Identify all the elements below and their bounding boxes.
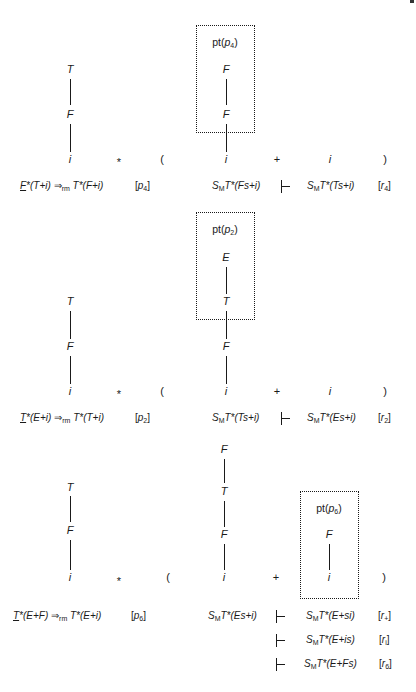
tree-node: F bbox=[326, 528, 333, 540]
tree-edge bbox=[70, 496, 71, 522]
tree-node: T bbox=[67, 63, 74, 75]
tree-node: F bbox=[223, 63, 230, 75]
page-corner-fragment bbox=[410, 0, 414, 3]
configuration-from: SMT*(Ts+i) bbox=[212, 412, 259, 424]
tree-node: i bbox=[223, 571, 225, 583]
plus-symbol: + bbox=[273, 571, 279, 583]
tree-edge bbox=[70, 79, 71, 105]
left-paren: ( bbox=[160, 385, 164, 397]
turnstile-icon bbox=[281, 180, 290, 193]
tree-node: E bbox=[222, 251, 229, 263]
reduction-formula: F*(T+i) ⇒rm T*(F+i) bbox=[20, 180, 103, 192]
tree-edge bbox=[70, 311, 71, 339]
turnstile-icon bbox=[276, 610, 285, 623]
box-label: pt(p4) bbox=[212, 36, 238, 49]
box-label: pt(p6) bbox=[316, 502, 342, 515]
left-paren: ( bbox=[166, 571, 170, 583]
left-paren: ( bbox=[160, 153, 164, 165]
tree-edge bbox=[226, 311, 227, 339]
tree-edge bbox=[224, 501, 225, 527]
tree-node: F bbox=[67, 524, 74, 536]
star-symbol: * bbox=[117, 156, 121, 168]
plus-symbol: + bbox=[274, 385, 280, 397]
tree-edge bbox=[226, 267, 227, 294]
tree-node: i bbox=[69, 385, 71, 397]
tree-node: F bbox=[67, 340, 74, 352]
tree-node: i bbox=[329, 385, 331, 397]
configuration-to: SMT*(E+si) bbox=[306, 610, 355, 622]
reduction-formula: T*(E+i) ⇒rm T*(T+i) bbox=[20, 412, 104, 424]
configuration-from: SMT*(Es+i) bbox=[208, 610, 257, 622]
production-tag: [p4] bbox=[135, 180, 150, 192]
right-paren: ) bbox=[383, 153, 387, 165]
tree-node: F bbox=[221, 443, 228, 455]
tree-node: i bbox=[69, 571, 71, 583]
turnstile-icon bbox=[281, 412, 290, 425]
configuration-from: SMT*(Fs+i) bbox=[212, 180, 260, 192]
configuration-to: SMT*(E+is) bbox=[306, 634, 355, 646]
rule-tag: [r4] bbox=[378, 180, 391, 192]
turnstile-icon bbox=[276, 634, 285, 647]
tree-node: T bbox=[221, 485, 228, 497]
tree-node: T bbox=[223, 295, 230, 307]
tree-edge bbox=[226, 124, 227, 152]
tree-edge bbox=[224, 544, 225, 570]
tree-node: F bbox=[67, 108, 74, 120]
star-symbol: * bbox=[117, 575, 121, 587]
tree-node: T bbox=[67, 295, 74, 307]
rule-tag: [r6] bbox=[379, 658, 392, 670]
tree-edge bbox=[70, 124, 71, 152]
tree-node: i bbox=[69, 153, 71, 165]
tree-node: i bbox=[225, 385, 227, 397]
right-paren: ) bbox=[382, 571, 386, 583]
box-label: pt(p2) bbox=[212, 223, 238, 236]
tree-edge bbox=[224, 459, 225, 483]
turnstile-icon bbox=[276, 658, 285, 671]
tree-node: i bbox=[329, 153, 331, 165]
tree-edge bbox=[226, 356, 227, 384]
configuration-to: SMT*(E+Fs) bbox=[304, 658, 357, 670]
reduction-formula: T*(E+F) ⇒rm T*(E+i) bbox=[13, 610, 101, 622]
tree-node: F bbox=[221, 528, 228, 540]
tree-edge bbox=[226, 79, 227, 105]
configuration-to: SMT*(Es+i) bbox=[307, 412, 356, 424]
tree-edge bbox=[329, 544, 330, 570]
rule-tag: [r+] bbox=[378, 610, 391, 622]
star-symbol: * bbox=[117, 388, 121, 400]
plus-symbol: + bbox=[274, 153, 280, 165]
tree-node: i bbox=[328, 571, 330, 583]
rule-tag: [ri] bbox=[379, 634, 389, 646]
tree-node: T bbox=[67, 481, 74, 493]
configuration-to: SMT*(Ts+i) bbox=[307, 180, 354, 192]
production-tag: [p2] bbox=[135, 412, 150, 424]
production-tag: [p6] bbox=[131, 610, 146, 622]
rule-tag: [r2] bbox=[378, 412, 391, 424]
tree-edge bbox=[70, 356, 71, 384]
tree-node: F bbox=[223, 340, 230, 352]
tree-edge bbox=[70, 540, 71, 570]
tree-node: i bbox=[225, 153, 227, 165]
right-paren: ) bbox=[383, 385, 387, 397]
tree-node: F bbox=[223, 108, 230, 120]
